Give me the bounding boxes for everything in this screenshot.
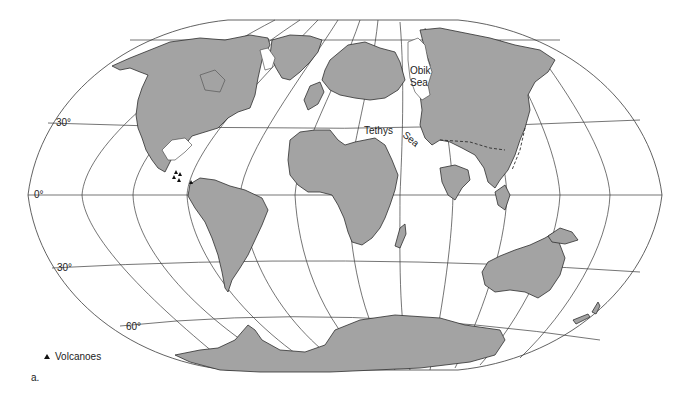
latitude-label-60s: 60° xyxy=(126,321,141,332)
paleogeographic-world-map: 30° 0° 30° 60° Obik Sea Tethys Sea xyxy=(0,0,691,395)
panel-label: a. xyxy=(31,372,39,383)
latitude-label-30n: 30° xyxy=(56,117,71,128)
legend-label-volcanoes: Volcanoes xyxy=(55,351,101,362)
label-tethys: Tethys xyxy=(364,125,393,136)
label-obik-sea: Sea xyxy=(410,77,428,88)
label-obik: Obik xyxy=(410,65,432,76)
latitude-label-0: 0° xyxy=(34,189,44,200)
triangle-icon xyxy=(44,354,50,359)
latitude-label-30s: 30° xyxy=(57,262,72,273)
legend: Volcanoes xyxy=(44,351,101,362)
